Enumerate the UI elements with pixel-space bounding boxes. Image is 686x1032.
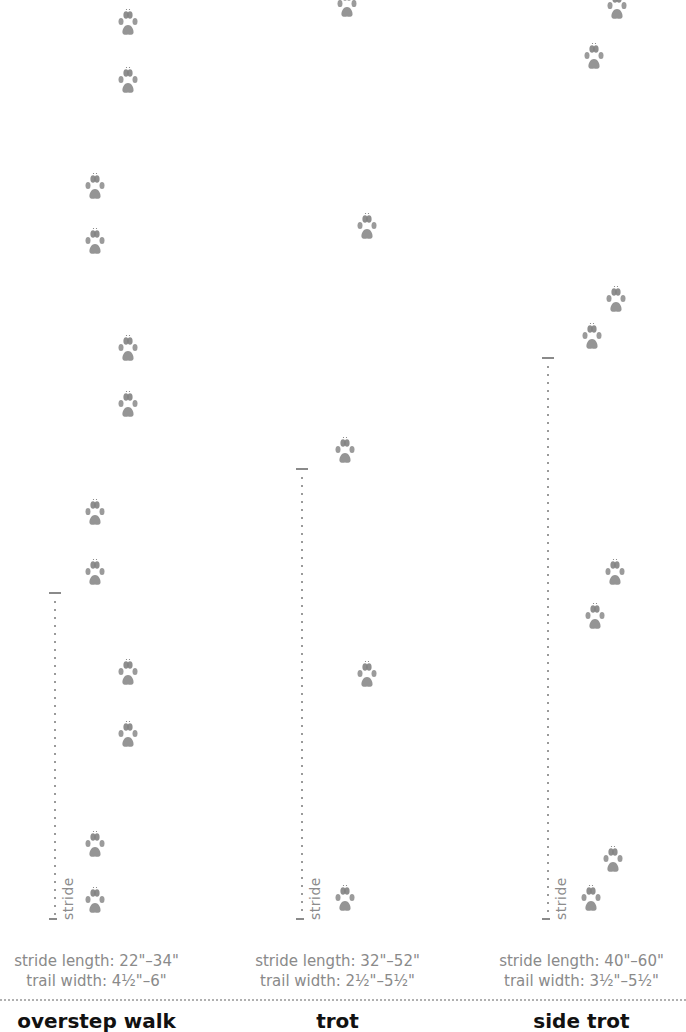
paw-print-icon xyxy=(334,436,356,464)
side-trot-stride-line xyxy=(547,363,549,916)
side-trot-stride-length: stride length: 40"–60" xyxy=(467,951,686,971)
trot-stride-cap-top xyxy=(296,468,308,470)
walk-stats: stride length: 22"–34" trail width: 4½"–… xyxy=(0,951,211,991)
walk-stride-cap-top xyxy=(49,592,61,594)
paw-print-icon xyxy=(117,8,139,36)
paw-print-icon xyxy=(117,720,139,748)
side-trot-stride-cap-top xyxy=(542,357,554,359)
gait-title-overstep-walk: overstep walk xyxy=(0,1008,211,1032)
paw-print-icon xyxy=(583,42,605,70)
paw-print-icon xyxy=(334,884,356,912)
paw-print-icon xyxy=(604,558,626,586)
paw-print-icon xyxy=(605,285,627,313)
paw-print-icon xyxy=(584,602,606,630)
side-trot-stride-cap-bottom xyxy=(542,918,550,920)
paw-print-icon xyxy=(117,334,139,362)
dotted-divider xyxy=(0,999,686,1001)
paw-print-icon xyxy=(356,660,378,688)
side-trot-stride-label: stride xyxy=(553,877,569,920)
trot-trail-width: trail width: 2½"–5½" xyxy=(223,971,452,991)
paw-print-icon xyxy=(606,0,628,20)
trot-stride-length: stride length: 32"–52" xyxy=(223,951,452,971)
paw-print-icon xyxy=(84,172,106,200)
trot-stride-cap-bottom xyxy=(296,918,304,920)
walk-trail-width: trail width: 4½"–6" xyxy=(0,971,211,991)
side-trot-stats: stride length: 40"–60" trail width: 3½"–… xyxy=(467,951,686,991)
walk-stride-length: stride length: 22"–34" xyxy=(0,951,211,971)
paw-print-icon xyxy=(84,558,106,586)
paw-print-icon xyxy=(117,66,139,94)
paw-print-icon xyxy=(336,0,358,18)
paw-print-icon xyxy=(117,658,139,686)
walk-stride-line xyxy=(54,598,56,916)
paw-print-icon xyxy=(602,845,624,873)
paw-print-icon xyxy=(84,498,106,526)
gait-title-trot: trot xyxy=(223,1008,452,1032)
paw-print-icon xyxy=(84,886,106,914)
paw-print-icon xyxy=(581,322,603,350)
gait-title-side-trot: side trot xyxy=(467,1008,686,1032)
paw-print-icon xyxy=(84,227,106,255)
walk-stride-label: stride xyxy=(60,877,76,920)
trot-stride-label: stride xyxy=(307,877,323,920)
paw-print-icon xyxy=(580,884,602,912)
walk-stride-cap-bottom xyxy=(49,918,57,920)
paw-print-icon xyxy=(84,830,106,858)
side-trot-trail-width: trail width: 3½"–5½" xyxy=(467,971,686,991)
paw-print-icon xyxy=(356,212,378,240)
trot-stats: stride length: 32"–52" trail width: 2½"–… xyxy=(223,951,452,991)
paw-print-icon xyxy=(117,390,139,418)
trot-stride-line xyxy=(301,474,303,916)
